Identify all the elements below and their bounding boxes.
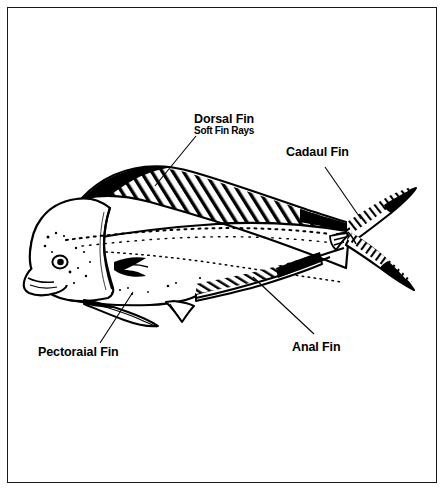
body-speckles	[111, 277, 201, 295]
caudal-fin	[340, 180, 425, 295]
label-anal-fin: Anal Fin	[292, 341, 341, 354]
caudal-lower-tip-shade	[380, 261, 414, 290]
pectoral-flank-mark	[114, 257, 148, 277]
label-dorsal-fin-title: Dorsal Fin	[194, 113, 254, 126]
flank-dark-wedge	[114, 257, 146, 277]
eye-pupil	[57, 259, 64, 266]
caudal-leader-line	[325, 167, 361, 219]
label-caudal-fin: Cadaul Fin	[286, 146, 349, 159]
anal-leader-line	[253, 277, 314, 334]
fish-anatomy-illustration	[0, 0, 446, 491]
caudal-lower-rays	[340, 230, 425, 295]
label-dorsal-fin: Dorsal Fin Soft Fin Rays	[194, 113, 254, 137]
label-dorsal-fin-subtitle: Soft Fin Rays	[194, 126, 254, 137]
pelvic-fin	[166, 301, 194, 322]
label-pectoral-fin: Pectoraial Fin	[38, 346, 119, 359]
diagram-page: Dorsal Fin Soft Fin Rays Cadaul Fin Pect…	[0, 0, 446, 491]
